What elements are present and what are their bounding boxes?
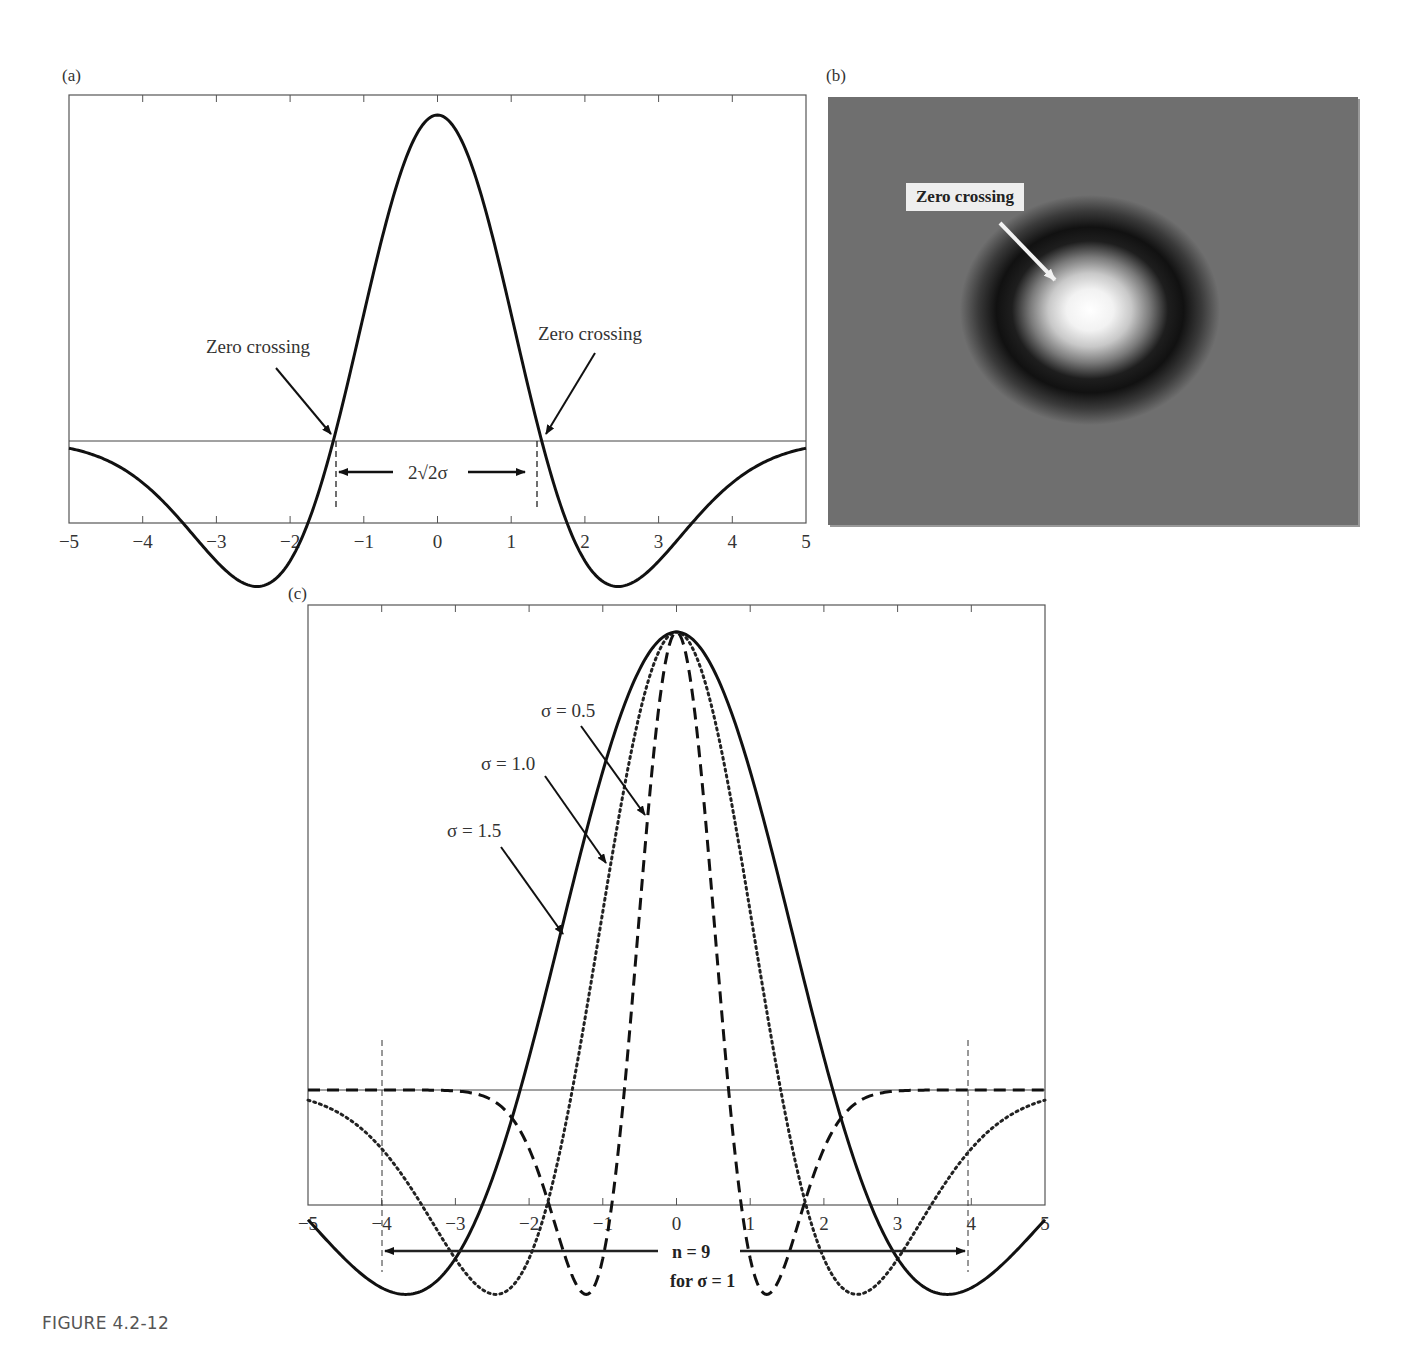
chart-a-ticks: [143, 95, 733, 523]
chart-a-zero-crossing-label-left: Zero crossing: [206, 336, 310, 357]
x-tick-label: −3: [206, 531, 226, 552]
x-tick-label: 2: [580, 531, 590, 552]
chart-a-zero-crossing-arrow-left: [276, 368, 331, 434]
x-tick-label: −4: [133, 531, 154, 552]
panel-b-log-filter-image: Zero crossing: [828, 97, 1358, 525]
x-tick-label: −5: [59, 531, 79, 552]
x-tick-label: 3: [654, 531, 664, 552]
x-tick-label: 0: [433, 531, 443, 552]
chart-a-frame: [69, 95, 806, 523]
chart-a-zero-crossing-label-right: Zero crossing: [538, 323, 642, 344]
x-tick-label: 4: [728, 531, 738, 552]
x-tick-label: −1: [354, 531, 374, 552]
x-tick-label: 1: [506, 531, 516, 552]
panel-b-white-arrow: [1000, 223, 1055, 280]
chart-a-zero-crossing-arrow-right: [546, 353, 595, 434]
chart-a-curve: [69, 115, 806, 586]
panel-b-arrow-layer: [828, 97, 1358, 525]
chart-a-width-label: 2√2σ: [408, 462, 448, 483]
chart-a-x-tick-labels: −5−4−3−2−1012345: [59, 531, 811, 552]
x-tick-label: 5: [801, 531, 811, 552]
figure-caption: FIGURE 4.2-12: [42, 1313, 169, 1333]
